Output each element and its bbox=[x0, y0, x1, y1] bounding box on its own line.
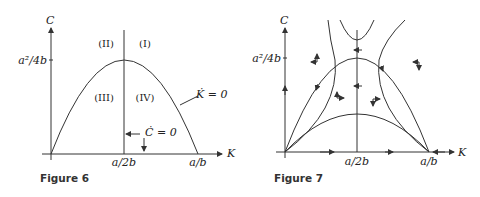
fig7-x-tick-mid: a/2b bbox=[345, 155, 369, 168]
diagram-canvas: C K a²/4b a/2b a/b (II) (I) (III) (IV) K… bbox=[0, 0, 480, 197]
direction-glyph-iii bbox=[337, 92, 344, 98]
k-dot-label: K̇ = 0 bbox=[195, 88, 227, 101]
fig6-x-tick-mid: a/2b bbox=[112, 156, 136, 169]
fig6-y-tick-label: a²/4b bbox=[18, 54, 47, 67]
fig6-k-label: K bbox=[226, 147, 236, 160]
fig7-y-tick-label: a²/4b bbox=[252, 52, 281, 65]
direction-glyph-ii bbox=[311, 54, 317, 62]
region-II: (II) bbox=[98, 38, 114, 49]
fig7-c-label: C bbox=[280, 14, 289, 27]
figure-6: C K a²/4b a/2b a/b (II) (I) (III) (IV) K… bbox=[18, 14, 236, 184]
region-I: (I) bbox=[139, 38, 151, 49]
figure-6-caption: Figure 6 bbox=[40, 172, 89, 184]
figure-7-caption: Figure 7 bbox=[274, 172, 323, 184]
fig6-c-label: C bbox=[46, 14, 55, 27]
direction-glyph-i bbox=[413, 62, 419, 70]
region-III: (III) bbox=[94, 92, 114, 103]
fig7-k-label: K bbox=[457, 146, 467, 159]
figure-7: C K a²/4b a/2b a/b Figure 7 bbox=[252, 14, 467, 184]
region-IV: (IV) bbox=[136, 92, 155, 103]
direction-glyph-iv bbox=[373, 99, 380, 106]
c-dot-label: Ċ = 0 bbox=[145, 125, 177, 139]
fig7-x-tick-end: a/b bbox=[420, 155, 437, 168]
fig6-x-tick-end: a/b bbox=[189, 156, 206, 169]
arrow-left-trajectory bbox=[316, 84, 318, 90]
